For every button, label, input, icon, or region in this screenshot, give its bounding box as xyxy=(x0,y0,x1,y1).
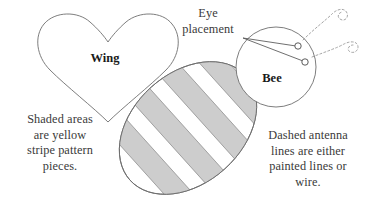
antenna-upper-dashed-line xyxy=(303,9,347,40)
callout-eye-placement: Eye placement xyxy=(168,6,248,37)
eye-dot-lower xyxy=(302,59,308,65)
pattern-diagram-page: Wing Bee xyxy=(0,0,367,210)
wing-label: Wing xyxy=(91,51,121,65)
eye-dot-upper xyxy=(295,43,301,49)
antenna-lower-dashed-line xyxy=(312,42,358,57)
callout-shaded-areas: Shaded areas are yellow stripe pattern p… xyxy=(6,112,114,174)
bee-label: Bee xyxy=(262,71,282,85)
callout-dashed-antenna: Dashed antenna lines are either painted … xyxy=(252,128,364,190)
